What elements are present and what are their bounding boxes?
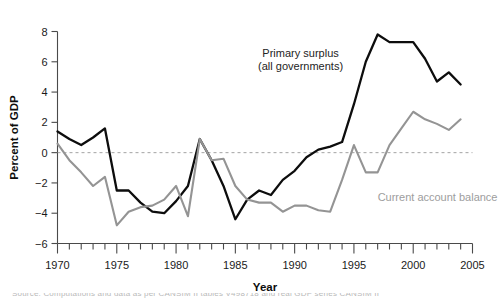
- x-tick-label: 1980: [164, 259, 188, 271]
- x-tick-label: 2005: [460, 259, 484, 271]
- x-axis-title: Year: [253, 281, 278, 293]
- annotation-line: (all governments): [258, 60, 343, 72]
- primary-surplus-label: Primary surplus(all governments): [258, 47, 343, 72]
- chart-figure: −6−4−202468 1970197519801985199019952000…: [0, 0, 498, 301]
- y-tick-label: −2: [35, 177, 48, 189]
- y-tick-label: 0: [41, 147, 47, 159]
- x-axis: 19701975198019851990199520002005: [45, 244, 484, 271]
- x-tick-label: 1990: [282, 259, 306, 271]
- x-tick-label: 1970: [45, 259, 69, 271]
- series-line-current-account: [58, 112, 461, 226]
- annotation-line: Current account balance: [378, 191, 498, 203]
- x-tick-label: 1985: [223, 259, 247, 271]
- y-axis-title: Percent of GDP: [8, 95, 20, 180]
- x-tick-label: 1995: [342, 259, 366, 271]
- y-tick-label: 4: [41, 86, 47, 98]
- current-account-label: Current account balance: [378, 191, 498, 203]
- x-tick-label: 1975: [105, 259, 129, 271]
- y-tick-label: 2: [41, 116, 47, 128]
- chart-plot-area: −6−4−202468 1970197519801985199019952000…: [0, 0, 498, 301]
- source-note-strip: Source: Computations and data as per CAN…: [0, 293, 498, 301]
- annotation-line: Primary surplus: [262, 47, 339, 59]
- y-axis: −6−4−202468: [35, 26, 58, 250]
- source-note: Source: Computations and data as per CAN…: [12, 293, 379, 298]
- y-tick-label: −4: [35, 207, 48, 219]
- y-tick-label: −6: [35, 238, 48, 250]
- y-tick-label: 8: [41, 26, 47, 38]
- y-tick-label: 6: [41, 56, 47, 68]
- x-tick-label: 2000: [401, 259, 425, 271]
- chart-annotations-group: Primary surplus(all governments)Current …: [258, 47, 497, 203]
